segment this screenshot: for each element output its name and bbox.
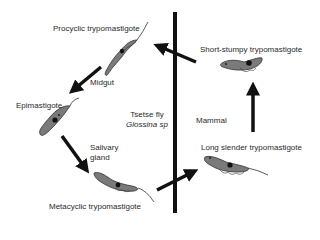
location-label-salivary-gland: Salivary gland — [90, 143, 118, 163]
host-label-tsetse: Tsetse fly Glossina sp — [122, 110, 172, 130]
tsetse-line-1: Tsetse fly — [122, 110, 172, 120]
long-slender-trypomastigote-cell — [204, 156, 268, 175]
location-label-midgut: Midgut — [90, 78, 114, 88]
metacyclic-trypomastigote-cell — [94, 173, 154, 202]
arrow-epimastigote-to-metacyclic — [62, 136, 83, 165]
tsetse-line-2: Glossina sp — [122, 120, 172, 130]
salivary-line-1: Salivary — [90, 143, 118, 153]
stage-label-procyclic: Procyclic trypomastigote — [53, 24, 140, 34]
arrow-short-stumpy-to-procyclic — [163, 48, 196, 62]
short-stumpy-trypomastigote-cell — [221, 58, 263, 72]
stage-label-short-stumpy: Short-stumpy trypomastigote — [200, 45, 302, 55]
salivary-line-2: gland — [90, 153, 118, 163]
stage-label-epimastigote: Epimastigote — [16, 101, 62, 111]
stage-label-long-slender: Long slender trypomastigote — [201, 143, 302, 153]
stage-label-metacyclic: Metacyclic trypomastigote — [49, 202, 141, 212]
host-label-mammal: Mammal — [196, 116, 227, 126]
